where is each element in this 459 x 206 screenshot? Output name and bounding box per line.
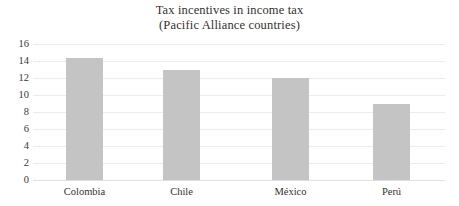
bar-slot-chile xyxy=(163,44,200,180)
chart-title-line-1: Tax incentives in income tax xyxy=(0,3,459,18)
bar-mexico[interactable] xyxy=(272,78,309,180)
y-axis: 16 14 12 10 8 6 4 2 0 xyxy=(0,44,29,180)
x-axis: Colombia Chile México Perú xyxy=(33,186,445,202)
bar-peru[interactable] xyxy=(373,104,410,181)
y-tick-label-2: 2 xyxy=(3,158,29,168)
bar-slot-peru xyxy=(373,44,410,180)
bar-chart-figure: Tax incentives in income tax (Pacific Al… xyxy=(0,0,459,206)
chart-title-line-2: (Pacific Alliance countries) xyxy=(0,18,459,33)
y-tick-label-14: 14 xyxy=(3,56,29,66)
chart-title: Tax incentives in income tax (Pacific Al… xyxy=(0,3,459,33)
bar-slot-mexico xyxy=(272,44,309,180)
bar-chile[interactable] xyxy=(163,70,200,181)
x-tick-label-chile: Chile xyxy=(141,186,222,198)
x-tick-label-mexico: México xyxy=(250,186,331,198)
y-tick-label-16: 16 xyxy=(3,39,29,49)
y-tick-label-8: 8 xyxy=(3,107,29,117)
y-tick-label-12: 12 xyxy=(3,73,29,83)
y-tick-label-6: 6 xyxy=(3,124,29,134)
y-tick-label-0: 0 xyxy=(3,175,29,185)
x-tick-label-colombia: Colombia xyxy=(44,186,125,198)
y-tick-label-10: 10 xyxy=(3,90,29,100)
gridline-baseline-0 xyxy=(33,180,445,181)
bar-colombia[interactable] xyxy=(66,58,103,180)
x-tick-label-peru: Perú xyxy=(351,186,432,198)
plot-area xyxy=(33,44,445,180)
y-tick-label-4: 4 xyxy=(3,141,29,151)
bar-slot-colombia xyxy=(66,44,103,180)
